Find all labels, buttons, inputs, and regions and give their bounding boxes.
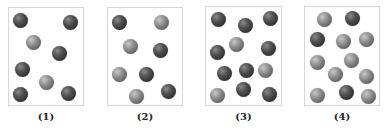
dark-particle-icon (139, 67, 154, 82)
panel-label: (4) (322, 111, 362, 122)
light-particle-icon (310, 88, 325, 103)
dark-particle-icon (52, 46, 67, 61)
dark-particle-icon (310, 32, 325, 47)
light-particle-icon (258, 63, 273, 78)
light-particle-icon (210, 88, 225, 103)
light-particle-icon (361, 89, 376, 104)
dark-particle-icon (263, 11, 278, 26)
light-particle-icon (112, 67, 127, 82)
light-particle-icon (129, 89, 144, 104)
dark-particle-icon (63, 15, 78, 30)
dark-particle-icon (15, 62, 30, 77)
dark-particle-icon (261, 41, 276, 56)
dark-particle-icon (61, 86, 76, 101)
dark-particle-icon (161, 84, 176, 99)
light-particle-icon (317, 12, 332, 27)
panel-label: (2) (125, 111, 165, 122)
light-particle-icon (359, 32, 374, 47)
light-particle-icon (336, 34, 351, 49)
dark-particle-icon (112, 15, 127, 30)
light-particle-icon (39, 75, 54, 90)
light-particle-icon (359, 69, 374, 84)
panel-label: (3) (224, 111, 264, 122)
dark-particle-icon (239, 63, 254, 78)
dark-particle-icon (339, 85, 354, 100)
light-particle-icon (123, 39, 138, 54)
light-particle-icon (344, 53, 359, 68)
dark-particle-icon (210, 45, 225, 60)
dark-particle-icon (217, 66, 232, 81)
dark-particle-icon (262, 87, 277, 102)
dark-particle-icon (345, 11, 360, 26)
light-particle-icon (229, 37, 244, 52)
dark-particle-icon (238, 18, 253, 33)
light-particle-icon (154, 15, 169, 30)
light-particle-icon (310, 55, 325, 70)
dark-particle-icon (13, 13, 28, 28)
dark-particle-icon (236, 82, 251, 97)
light-particle-icon (26, 35, 41, 50)
panel-label: (1) (26, 111, 66, 122)
dark-particle-icon (211, 12, 226, 27)
dark-particle-icon (153, 43, 168, 58)
dark-particle-icon (13, 87, 28, 102)
light-particle-icon (328, 67, 343, 82)
